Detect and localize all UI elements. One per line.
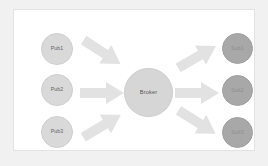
arrow-right-icon [173,101,222,143]
node-sub1[interactable]: Sub1 [222,33,253,64]
node-pub3[interactable]: Pub3 [41,116,73,148]
node-pub2-label: Pub2 [51,87,64,92]
node-sub2[interactable]: Sub2 [222,75,253,106]
node-pub2[interactable]: Pub2 [41,74,73,106]
arrow-right-icon [78,31,127,73]
node-sub2-label: Sub2 [231,88,244,93]
node-sub1-label: Sub1 [231,46,244,51]
arrow-right-icon [80,82,124,104]
diagram-canvas: Pub1 Pub2 Pub3 Broker Sub1 Sub2 Sub3 [0,0,268,166]
node-sub3-label: Sub3 [231,130,244,135]
arrow-right-icon [77,105,126,147]
arrow-right-icon [172,36,221,77]
node-pub1-label: Pub1 [51,46,64,51]
diagram-panel: Pub1 Pub2 Pub3 Broker Sub1 Sub2 Sub3 [13,9,255,151]
node-broker[interactable]: Broker [124,68,173,117]
node-broker-label: Broker [140,90,157,96]
arrow-right-icon [175,82,219,104]
node-pub3-label: Pub3 [51,129,64,134]
node-sub3[interactable]: Sub3 [222,117,253,148]
node-pub1[interactable]: Pub1 [41,33,73,65]
